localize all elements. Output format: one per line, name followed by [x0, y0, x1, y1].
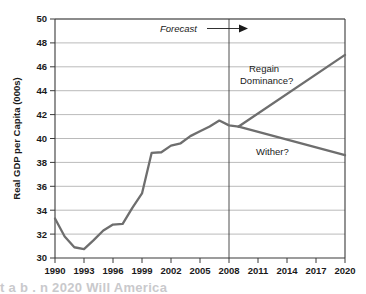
regain-dominance-label-line2: Dominance? [240, 75, 293, 86]
x-tick-label: 2020 [334, 265, 355, 276]
y-tick-label: 42 [36, 109, 47, 120]
y-tick-label: 32 [36, 229, 47, 240]
y-tick-label: 30 [36, 252, 47, 263]
y-tick-label: 36 [36, 181, 47, 192]
y-axis-title: Real GDP per Capita (000s) [11, 77, 22, 199]
y-tick-label: 46 [36, 61, 47, 72]
page-caption-partial: t a b . n 2020 Will America [0, 282, 366, 294]
y-tick-label: 44 [36, 85, 47, 96]
y-tick-labels: 50 48 46 44 42 40 38 36 34 32 30 [36, 13, 47, 263]
x-tick-label: 1999 [131, 265, 152, 276]
x-tick-label: 2002 [160, 265, 181, 276]
x-tick-labels: 1990 1993 1996 1999 2002 2005 2008 2011 … [44, 265, 355, 276]
x-tick-label: 2014 [276, 265, 298, 276]
y-tick-marks [50, 19, 55, 258]
wither-annotation: Wither? [256, 146, 289, 157]
y-tick-label: 48 [36, 37, 47, 48]
x-tick-label: 2011 [248, 265, 269, 276]
gdp-per-capita-line-chart: 50 48 46 44 42 40 38 36 34 32 30 [0, 0, 366, 294]
wither-label: Wither? [256, 146, 289, 157]
x-tick-label: 1993 [73, 265, 94, 276]
y-tick-label: 50 [36, 13, 47, 24]
x-tick-label: 2005 [189, 265, 211, 276]
x-tick-marks [55, 258, 345, 263]
chart-figure: 50 48 46 44 42 40 38 36 34 32 30 [0, 0, 366, 294]
x-tick-label: 2008 [218, 265, 239, 276]
regain-dominance-label-line1: Regain [249, 63, 279, 74]
y-tick-label: 40 [36, 133, 47, 144]
forecast-label: Forecast [160, 23, 197, 34]
x-tick-label: 1996 [102, 265, 123, 276]
x-tick-label: 2017 [305, 265, 326, 276]
y-tick-label: 38 [36, 157, 47, 168]
x-tick-label: 1990 [44, 265, 65, 276]
y-tick-label: 34 [36, 205, 47, 216]
